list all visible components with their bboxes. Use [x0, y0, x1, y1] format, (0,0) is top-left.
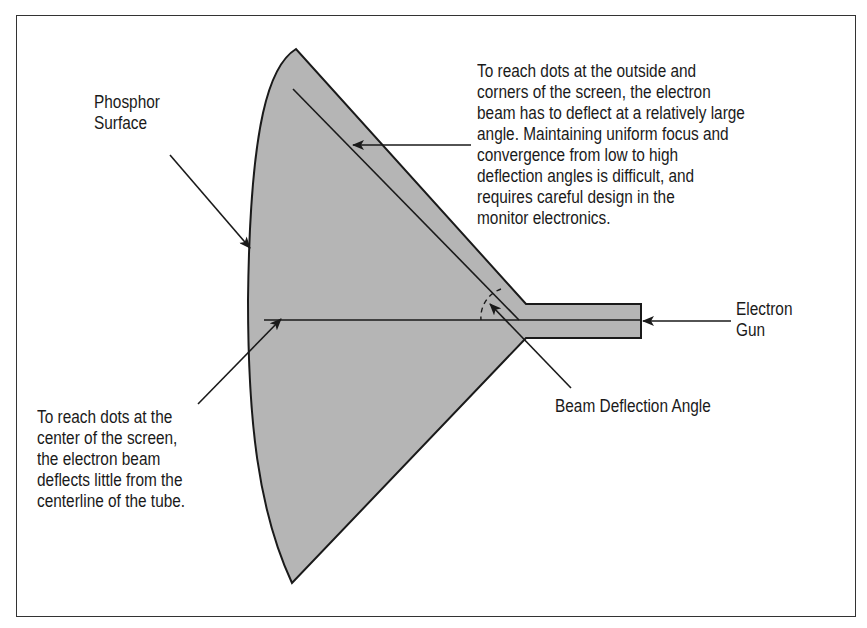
note-line: centerline of the tube. — [37, 491, 185, 512]
center-deflection-note: To reach dots at the center of the scree… — [37, 407, 185, 512]
electron-gun-label-line: Electron — [736, 299, 792, 320]
note-line: To reach dots at the — [37, 407, 185, 428]
phosphor-label-line: Surface — [94, 113, 160, 134]
deflection-label-line: Beam Deflection Angle — [555, 396, 711, 417]
phosphor-label-line: Phosphor — [94, 92, 160, 113]
note-line: the electron beam — [37, 449, 185, 470]
beam-deflection-angle-label: Beam Deflection Angle — [555, 396, 711, 417]
note-line: deflects little from the — [37, 470, 185, 491]
electron-gun-label: Electron Gun — [736, 299, 792, 341]
note-line: beam has to deflect at a relatively larg… — [477, 103, 745, 124]
note-line: center of the screen, — [37, 428, 185, 449]
note-line: convergence from low to high — [477, 145, 745, 166]
note-line: corners of the screen, the electron — [477, 82, 745, 103]
note-line: To reach dots at the outside and — [477, 61, 745, 82]
outer-deflection-note: To reach dots at the outside and corners… — [477, 61, 745, 229]
phosphor-surface-arrow — [170, 155, 250, 248]
note-line: deflection angles is difficult, and — [477, 166, 745, 187]
phosphor-surface-label: Phosphor Surface — [94, 92, 160, 134]
note-line: monitor electronics. — [477, 208, 745, 229]
note-line: angle. Maintaining uniform focus and — [477, 124, 745, 145]
electron-gun-label-line: Gun — [736, 320, 792, 341]
note-line: requires careful design in the — [477, 187, 745, 208]
